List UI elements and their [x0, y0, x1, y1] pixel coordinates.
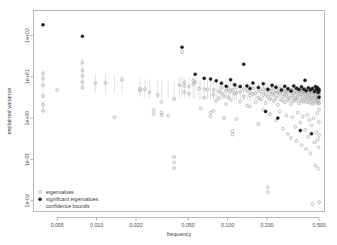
x-tick-label: 0.020 [129, 222, 142, 228]
data-point-significant-eigenvalue [264, 110, 267, 113]
data-point-significant-eigenvalue [194, 73, 197, 76]
data-point-significant-eigenvalue [203, 77, 206, 80]
y-tick-label: 1e+00 [24, 111, 30, 126]
data-point-significant-eigenvalue [300, 85, 303, 88]
data-point-significant-eigenvalue [245, 84, 248, 87]
y-tick-label: 1e+02 [24, 28, 30, 43]
x-tick-label: 0.010 [90, 222, 103, 228]
data-point-significant-eigenvalue [81, 35, 84, 38]
data-point-significant-eigenvalue [239, 85, 242, 88]
x-tick-label: 0.200 [260, 222, 273, 228]
data-point-significant-eigenvalue [280, 88, 283, 91]
x-tick-label: 0.100 [221, 222, 234, 228]
data-point-significant-eigenvalue [262, 82, 265, 85]
data-point-significant-eigenvalue [310, 132, 313, 135]
data-point-significant-eigenvalue [225, 85, 228, 88]
x-axis-title: frequency [167, 231, 192, 237]
legend-marker-significant-eigenvalues [39, 198, 42, 201]
data-point-significant-eigenvalue [257, 86, 260, 89]
data-point-significant-eigenvalue [180, 46, 183, 49]
data-point-significant-eigenvalue [229, 78, 232, 81]
data-point-significant-eigenvalue [233, 83, 236, 86]
data-point-significant-eigenvalue [242, 63, 245, 66]
x-tick-label: 0.500 [313, 222, 326, 228]
x-tick-label: 0.050 [182, 222, 195, 228]
data-point-significant-eigenvalue [215, 79, 218, 82]
data-point-significant-eigenvalue [318, 96, 321, 99]
data-point-significant-eigenvalue [266, 88, 269, 91]
legend-label: significant eigenvalues [46, 196, 99, 202]
data-point-significant-eigenvalue [276, 117, 279, 120]
y-tick-label: 1e-02 [24, 194, 30, 207]
legend-label: confidence bounds [46, 203, 90, 209]
data-point-significant-eigenvalue [298, 88, 301, 91]
data-point-significant-eigenvalue [311, 87, 314, 90]
y-tick-label: 1e+01 [24, 69, 30, 84]
data-point-significant-eigenvalue [318, 89, 321, 92]
data-point-significant-eigenvalue [304, 79, 307, 82]
y-tick-label: 1e-01 [24, 153, 30, 166]
data-point-significant-eigenvalue [299, 129, 302, 132]
data-point-significant-eigenvalue [283, 85, 286, 88]
chart-figure: 1e+021e+011e+001e-011e-02 0.0050.0100.02… [0, 0, 337, 245]
data-point-significant-eigenvalue [274, 86, 277, 89]
data-point-significant-eigenvalue [292, 84, 295, 87]
data-point-significant-eigenvalue [289, 90, 292, 93]
data-point-significant-eigenvalue [42, 23, 45, 26]
data-point-significant-eigenvalue [220, 82, 223, 85]
scatter-plot: 1e+021e+011e+001e-011e-02 0.0050.0100.02… [0, 0, 337, 245]
data-point-significant-eigenvalue [251, 81, 254, 84]
legend-label: eigenvalues [46, 189, 74, 195]
x-tick-label: 0.005 [51, 222, 64, 228]
data-point-significant-eigenvalue [305, 89, 308, 92]
data-point-significant-eigenvalue [271, 84, 274, 87]
data-point-significant-eigenvalue [286, 87, 289, 90]
y-axis-title: explained variance [6, 88, 12, 135]
data-point-significant-eigenvalue [209, 78, 212, 81]
data-point-significant-eigenvalue [248, 87, 251, 90]
